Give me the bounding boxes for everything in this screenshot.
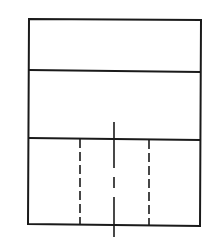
technical-drawing (0, 0, 207, 237)
top-divider-line (29, 70, 201, 72)
